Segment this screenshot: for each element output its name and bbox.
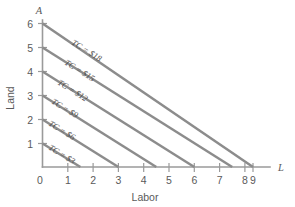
isocost-label-tc9: TC = $9 xyxy=(50,96,81,120)
x-axis-title: Labor xyxy=(132,191,159,203)
x-tick-label-1: 1 xyxy=(65,174,71,186)
y-axis-symbol: A xyxy=(35,5,43,16)
x-tick-label-2: 2 xyxy=(90,174,96,186)
isocost-label-tc3: TC = $3 xyxy=(47,142,77,166)
isocost-label-tc6: TC = $6 xyxy=(47,118,78,142)
y-tick-label-4: 4 xyxy=(27,66,33,78)
isocost-label-tc18: TC = $18 xyxy=(70,37,104,64)
y-axis-tick-labels: 1 2 3 4 5 6 xyxy=(27,18,33,150)
x-tick-label-8: 8 xyxy=(242,174,248,186)
y-tick-label-5: 5 xyxy=(27,42,33,54)
x-tick-label-9: 9 xyxy=(250,174,256,186)
x-axis-symbol: L xyxy=(277,162,284,173)
x-axis-tick-labels: 1 2 3 4 5 6 7 8 9 xyxy=(65,174,256,186)
x-tick-label-5: 5 xyxy=(166,174,172,186)
x-tick-label-4: 4 xyxy=(141,174,147,186)
x-tick-label-6: 6 xyxy=(191,174,197,186)
origin-label: 0 xyxy=(37,174,43,186)
y-axis-title: Land xyxy=(4,86,16,110)
chart-canvas: 1 2 3 4 5 6 0 1 2 3 4 5 6 7 8 9 A L Labo… xyxy=(0,0,295,207)
y-tick-label-3: 3 xyxy=(27,90,33,102)
y-tick-label-1: 1 xyxy=(27,138,33,150)
x-tick-label-3: 3 xyxy=(115,174,121,186)
isocost-label-tc15: TC = $15 xyxy=(63,57,97,84)
x-tick-label-7: 7 xyxy=(217,174,223,186)
y-tick-label-6: 6 xyxy=(27,18,33,30)
isocost-chart-figure: 1 2 3 4 5 6 0 1 2 3 4 5 6 7 8 9 A L Labo… xyxy=(0,0,295,207)
y-tick-label-2: 2 xyxy=(27,114,33,126)
